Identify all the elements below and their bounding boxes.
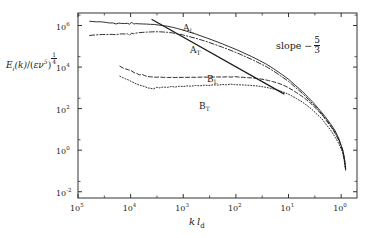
curve-label-base: A bbox=[183, 23, 190, 33]
series-curve-a-l bbox=[90, 21, 346, 168]
x-tick-label-0: 105 bbox=[70, 202, 84, 213]
curve-label-subscript: T bbox=[197, 49, 201, 56]
x-tick-label-1: 104 bbox=[123, 202, 137, 213]
curve-label-subscript: L bbox=[214, 78, 218, 85]
x-tick-label-3: 102 bbox=[228, 202, 242, 213]
y-tick-label-0: 106 bbox=[56, 21, 70, 32]
y-tick-label-2: 102 bbox=[56, 104, 70, 115]
curve-label-a-t: AT bbox=[190, 45, 201, 55]
curve-label-subscript: L bbox=[190, 27, 194, 34]
curve-label-base: A bbox=[190, 45, 197, 55]
energy-spectrum-figure: Ei(k)/(εν5)14 kld slope − 5 3 1051041031… bbox=[0, 0, 367, 238]
x-tick-label-4: 101 bbox=[281, 202, 295, 213]
series-curve-b-t bbox=[120, 76, 346, 169]
curve-label-b-t: BT bbox=[199, 101, 210, 111]
curve-label-base: B bbox=[207, 74, 214, 84]
x-tick-label-2: 103 bbox=[175, 202, 189, 213]
curve-label-b-l: BL bbox=[207, 74, 218, 84]
y-tick-label-1: 104 bbox=[56, 62, 70, 73]
x-tick-label-5: 100 bbox=[333, 202, 347, 213]
series-curve-b-l bbox=[120, 66, 346, 167]
curve-label-base: B bbox=[199, 101, 206, 111]
y-tick-label-3: 100 bbox=[56, 145, 70, 156]
curve-label-a-l: AL bbox=[183, 23, 193, 33]
curve-label-subscript: T bbox=[206, 105, 210, 112]
y-tick-label-4: 10-2 bbox=[56, 187, 72, 198]
plot-frame bbox=[78, 13, 357, 198]
